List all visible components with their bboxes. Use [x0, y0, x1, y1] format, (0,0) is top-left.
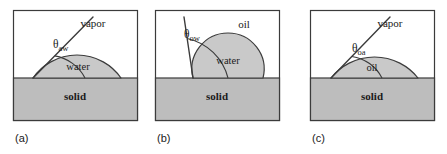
- panel-c: vaporoilsolidθoa(c): [311, 11, 435, 145]
- panel-a-ambient-label: vapor: [80, 17, 105, 29]
- panel-c-droplet-label: oil: [366, 62, 377, 73]
- panel-c-substrate-label: solid: [361, 90, 383, 102]
- panel-a-angle-subscript: aw: [59, 43, 70, 53]
- panel-c-angle-subscript: oa: [358, 47, 366, 57]
- panel-b-droplet-label: water: [216, 55, 240, 66]
- panel-b-ambient-label: oil: [238, 18, 250, 30]
- panel-a-substrate-label: solid: [64, 90, 86, 102]
- panel-b: oilwatersolidθow(b): [156, 11, 280, 145]
- panel-b-angle-subscript: ow: [190, 33, 201, 43]
- contact-angle-figure: vaporwatersolidθaw(a)oilwatersolidθow(b)…: [0, 0, 447, 154]
- panel-a-caption: (a): [15, 132, 28, 144]
- panel-a: vaporwatersolidθaw(a): [14, 11, 138, 145]
- figure-canvas: vaporwatersolidθaw(a)oilwatersolidθow(b)…: [0, 0, 447, 154]
- panel-c-ambient-label: vapor: [377, 17, 402, 29]
- panel-a-droplet-label: water: [66, 61, 90, 72]
- panel-c-caption: (c): [312, 132, 325, 144]
- panel-b-caption: (b): [157, 132, 170, 144]
- panel-b-substrate-label: solid: [206, 90, 228, 102]
